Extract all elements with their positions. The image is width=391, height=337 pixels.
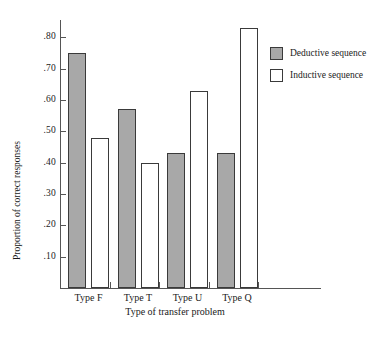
y-axis-tick-mark	[60, 100, 66, 101]
legend-item-inductive: Inductive sequence	[270, 64, 366, 86]
legend-swatch-deductive-icon	[270, 47, 283, 60]
bar-type-f-deductive	[68, 53, 86, 288]
bar-type-q-inductive	[240, 28, 258, 288]
bar-chart-figure: .10.20.30.40.50.60.70.80 Type FType TTyp…	[0, 0, 391, 337]
y-axis-tick-mark	[60, 163, 66, 164]
y-axis-tick-label: .10	[32, 252, 56, 262]
x-axis-tick-mark	[209, 282, 210, 289]
x-axis-tick-mark	[110, 282, 111, 289]
y-axis-tick-mark	[60, 69, 66, 70]
bar-type-f-inductive	[91, 138, 109, 288]
legend-swatch-inductive-icon	[270, 69, 283, 82]
bar-type-t-inductive	[141, 163, 159, 288]
y-axis-tick-label: .70	[32, 64, 56, 74]
x-axis-label-type-q: Type Q	[207, 292, 267, 304]
x-axis-line	[60, 288, 321, 289]
y-axis-tick-label: .50	[32, 126, 56, 136]
y-axis-tick-label: .60	[32, 95, 56, 105]
bar-type-u-inductive	[190, 91, 208, 288]
bar-type-u-deductive	[167, 153, 185, 288]
x-axis-tick-mark	[258, 282, 259, 289]
y-axis-tick-label: .40	[32, 158, 56, 168]
bar-type-q-deductive	[217, 153, 235, 288]
legend-label-deductive: Deductive sequence	[290, 48, 366, 59]
y-axis-tick-label: .30	[32, 189, 56, 199]
y-axis-tick-label: .80	[32, 32, 56, 42]
legend-item-deductive: Deductive sequence	[270, 42, 366, 64]
y-axis-title: Proportion of correct responses	[12, 60, 23, 260]
y-axis-tick-mark	[60, 131, 66, 132]
y-axis-tick-mark	[60, 37, 66, 38]
x-axis-title: Type of transfer problem	[60, 306, 290, 318]
chart-legend: Deductive sequence Inductive sequence	[270, 42, 366, 86]
legend-label-inductive: Inductive sequence	[290, 70, 363, 81]
y-axis-tick-mark	[60, 257, 66, 258]
y-axis-line	[60, 20, 61, 289]
y-axis-tick-mark	[60, 194, 66, 195]
y-axis-tick-label: .20	[32, 220, 56, 230]
y-axis-tick-mark	[60, 225, 66, 226]
x-axis-tick-mark	[60, 282, 61, 289]
x-axis-tick-mark	[159, 282, 160, 289]
bar-type-t-deductive	[118, 109, 136, 288]
